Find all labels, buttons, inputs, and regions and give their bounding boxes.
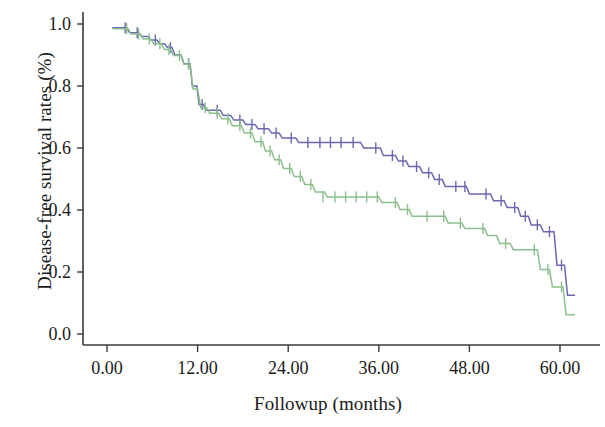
y-tick-label: 0.4 [0, 201, 71, 219]
y-tick-label: 0.2 [0, 263, 71, 281]
x-axis-title: Followup (months) [83, 393, 573, 415]
y-tick-label: 0.8 [0, 77, 71, 95]
y-tick-label: 0.6 [0, 139, 71, 157]
censor-marks [125, 22, 561, 270]
censor-marks [127, 23, 562, 292]
x-tick-label: 60.00 [520, 359, 600, 377]
x-tick-label: 24.00 [248, 359, 328, 377]
x-tick-label: 12.00 [158, 359, 238, 377]
x-tick-label: 48.00 [429, 359, 509, 377]
y-tick-label: 0.0 [0, 325, 71, 343]
axis-lines [83, 12, 600, 345]
series-series-blue [112, 22, 575, 295]
y-axis-title: Disease-free survival rates (%) [34, 6, 56, 336]
x-axis-ticks [107, 345, 560, 352]
y-axis-ticks [77, 24, 83, 334]
x-tick-label: 0.00 [67, 359, 147, 377]
x-tick-label: 36.00 [339, 359, 419, 377]
survival-curve [112, 29, 575, 315]
survival-chart-figure: Disease-free survival rates (%) Followup… [0, 0, 605, 427]
survival-curve [112, 28, 575, 296]
series-series-green [112, 23, 575, 315]
y-tick-label: 1.0 [0, 15, 71, 33]
